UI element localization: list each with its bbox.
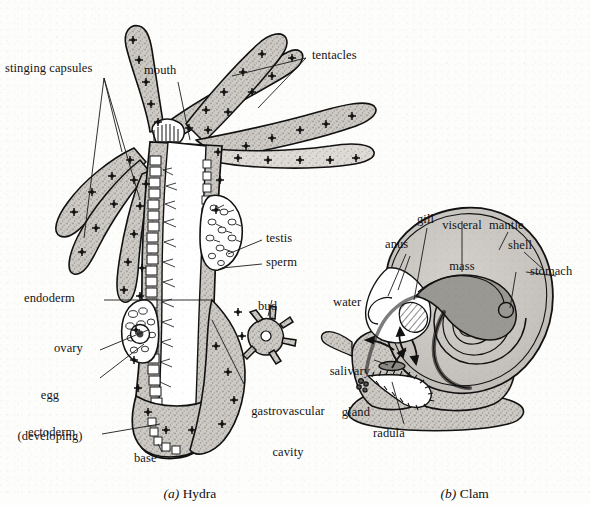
label-bud: bud xyxy=(258,300,277,314)
label-visceral-line2: mass xyxy=(422,260,502,274)
label-salivary-line2: gland xyxy=(296,406,370,420)
label-sperm: sperm xyxy=(266,256,297,270)
label-tentacles: tentacles xyxy=(312,49,357,63)
label-egg-developing: egg (developing) xyxy=(0,362,100,470)
hydra-bud xyxy=(243,306,296,364)
caption-a-title: Hydra xyxy=(183,486,217,501)
label-mantle: mantle xyxy=(489,219,524,233)
label-stinging-capsules: stinging capsules xyxy=(5,62,92,76)
caption-b-marker: (b) xyxy=(441,486,457,501)
label-endoderm: endoderm xyxy=(24,292,75,306)
label-water: water xyxy=(333,296,361,310)
label-ectoderm: ectoderm xyxy=(28,426,75,440)
caption-b-title: Clam xyxy=(460,486,489,501)
caption-a-marker: (a) xyxy=(164,486,180,501)
label-salivary-gland: salivary gland xyxy=(296,338,370,446)
caption-panel-b: (b) Clam xyxy=(427,470,489,505)
label-ovary: ovary xyxy=(54,342,83,356)
label-stomach: stomach xyxy=(530,265,572,279)
label-testis: testis xyxy=(266,232,292,246)
label-salivary-line1: salivary xyxy=(296,365,370,379)
label-mouth: mouth xyxy=(144,64,176,78)
label-shell: shell xyxy=(508,239,532,253)
label-base: base xyxy=(134,452,157,466)
label-gill: gill xyxy=(417,213,434,227)
label-gastrovascular-line2: cavity xyxy=(228,446,348,460)
label-visceral-mass: visceral mass xyxy=(422,192,502,300)
caption-panel-a: (a) Hydra xyxy=(150,470,216,505)
label-anus: anus xyxy=(385,238,408,252)
label-radula: radula xyxy=(373,427,405,441)
label-egg-line1: egg xyxy=(0,389,100,403)
